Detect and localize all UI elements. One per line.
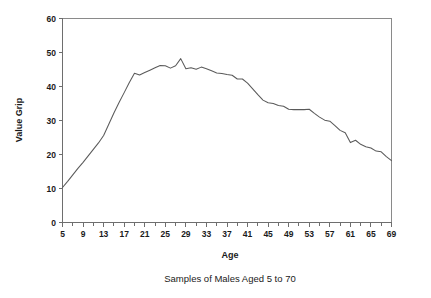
plot-frame	[63, 19, 392, 223]
y-tick-label: 50	[47, 48, 57, 58]
y-tick-label: 20	[47, 150, 57, 160]
y-tick-label: 10	[47, 184, 57, 194]
x-tick-label: 41	[243, 229, 253, 239]
x-tick-label: 45	[263, 229, 273, 239]
x-tick-label: 61	[346, 229, 356, 239]
x-tick-label: 57	[325, 229, 335, 239]
x-tick-label: 13	[99, 229, 109, 239]
x-tick-label: 49	[284, 229, 294, 239]
x-axis-title: Age	[221, 250, 238, 260]
x-tick-label: 65	[366, 229, 376, 239]
x-tick-label: 33	[202, 229, 212, 239]
y-tick-label: 40	[47, 82, 57, 92]
x-tick-label: 53	[305, 229, 315, 239]
x-tick-label: 21	[140, 229, 150, 239]
line-chart: 0102030405060 59131721252933374145495357…	[0, 0, 431, 298]
x-axis-ticks: 59131721252933374145495357616569	[60, 223, 396, 239]
chart-figure: 0102030405060 59131721252933374145495357…	[0, 0, 431, 298]
y-tick-label: 30	[47, 116, 57, 126]
x-tick-label: 25	[161, 229, 171, 239]
x-tick-label: 37	[222, 229, 232, 239]
x-tick-label: 69	[387, 229, 397, 239]
series-paths	[63, 59, 392, 188]
y-tick-label: 0	[51, 218, 56, 228]
series-line-grip-strength	[63, 59, 392, 188]
y-axis-ticks: 0102030405060	[47, 14, 63, 228]
y-axis-title: Value Grip	[14, 97, 24, 142]
x-tick-label: 17	[119, 229, 129, 239]
x-tick-label: 29	[181, 229, 191, 239]
figure-caption: Samples of Males Aged 5 to 70	[164, 273, 296, 284]
x-tick-label: 5	[60, 229, 65, 239]
y-tick-label: 60	[47, 14, 57, 24]
x-tick-label: 9	[81, 229, 86, 239]
